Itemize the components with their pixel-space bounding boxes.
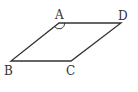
parallelogram-diagram: A D C B <box>0 0 138 92</box>
parallelogram-abcd <box>11 23 121 61</box>
vertex-label-a: A <box>54 8 64 22</box>
vertex-label-d: D <box>118 9 128 23</box>
vertex-label-c: C <box>66 64 75 78</box>
vertex-label-b: B <box>4 64 13 78</box>
